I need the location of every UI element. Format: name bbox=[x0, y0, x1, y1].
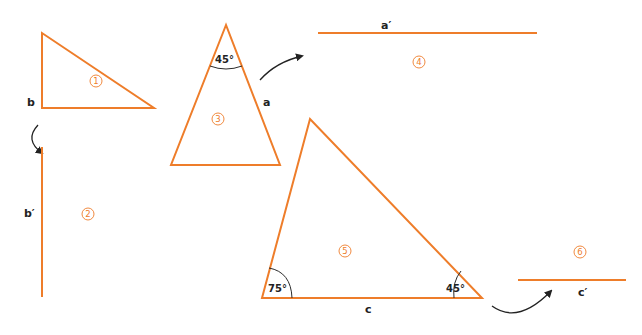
svg-text:6: 6 bbox=[577, 247, 582, 257]
curved-arrow-icon bbox=[492, 291, 551, 313]
side-label-b: b bbox=[27, 96, 35, 109]
segment-6: c′ 6 bbox=[518, 246, 626, 299]
triangle-3: 45° a 3 bbox=[171, 25, 280, 165]
geometry-figure: b 1 b′ 2 45° a 3 a′ 4 bbox=[0, 0, 642, 335]
segment-4: a′ 4 bbox=[318, 19, 537, 68]
triangle-5: 75° 45° c 5 bbox=[262, 119, 482, 316]
segment-label-b-prime: b′ bbox=[24, 207, 35, 220]
number-5-badge: 5 bbox=[339, 245, 351, 257]
triangle-3-outline bbox=[171, 25, 280, 165]
angle-label-45-apex: 45° bbox=[215, 54, 234, 65]
curved-arrow-icon bbox=[260, 56, 302, 80]
triangle-1-outline bbox=[42, 33, 154, 108]
triangle-1: b 1 bbox=[27, 33, 154, 109]
number-2-badge: 2 bbox=[82, 208, 94, 220]
svg-text:2: 2 bbox=[85, 209, 90, 219]
curved-arrow-icon bbox=[32, 125, 42, 153]
svg-text:1: 1 bbox=[93, 76, 98, 86]
segment-2: b′ 2 bbox=[24, 147, 94, 297]
side-label-c: c bbox=[365, 303, 372, 316]
triangle-5-outline bbox=[262, 119, 482, 298]
segment-label-c-prime: c′ bbox=[578, 286, 588, 299]
angle-label-45-right: 45° bbox=[446, 283, 465, 294]
side-label-a: a bbox=[263, 96, 270, 109]
svg-text:4: 4 bbox=[416, 57, 421, 67]
number-1-badge: 1 bbox=[90, 75, 102, 87]
svg-text:3: 3 bbox=[215, 114, 220, 124]
number-6-badge: 6 bbox=[574, 246, 586, 258]
number-4-badge: 4 bbox=[413, 56, 425, 68]
segment-label-a-prime: a′ bbox=[381, 19, 391, 32]
svg-text:5: 5 bbox=[342, 246, 347, 256]
number-3-badge: 3 bbox=[212, 113, 224, 125]
angle-arc-icon bbox=[210, 66, 242, 69]
angle-label-75: 75° bbox=[268, 283, 287, 294]
